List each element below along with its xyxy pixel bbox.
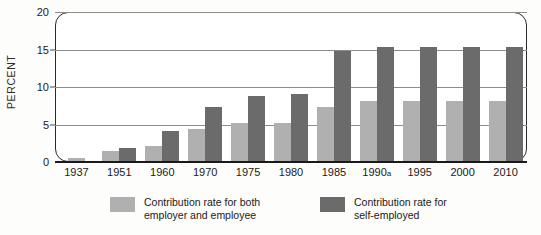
x-tick-label-2000: 2000 (450, 166, 474, 178)
chart-legend: Contribution rate for both employer and … (110, 196, 530, 230)
bar-1995-series1 (403, 101, 420, 162)
legend-item-employer-employee: Contribution rate for both employer and … (110, 196, 320, 221)
bar-1960-series1 (145, 146, 162, 163)
x-tick-label-1970: 1970 (193, 166, 217, 178)
bar-group-1970 (184, 12, 227, 162)
bar-1975-series2 (248, 96, 265, 162)
x-axis-labels: 19371951196019701975198019851990a1995200… (55, 166, 527, 182)
bar-1990a-series1 (360, 101, 377, 162)
x-tick-label-1995: 1995 (407, 166, 431, 178)
bar-group-1995 (398, 12, 441, 162)
y-tick-label-5: 5 (11, 119, 49, 131)
x-tick-label-1985: 1985 (322, 166, 346, 178)
bars-layer (55, 12, 527, 162)
bar-1951-series2 (119, 148, 136, 162)
legend-label-employer-employee: Contribution rate for both employer and … (144, 196, 260, 221)
bar-2010-series2 (506, 47, 523, 162)
bar-group-1960 (141, 12, 184, 162)
bar-1960-series2 (162, 131, 179, 163)
bar-1985-series2 (334, 51, 351, 162)
y-tick-label-0: 0 (11, 156, 49, 168)
bar-1980-series2 (291, 94, 308, 162)
bar-group-1975 (227, 12, 270, 162)
bar-group-1985 (312, 12, 355, 162)
bar-2010-series1 (489, 101, 506, 162)
bar-group-1990a (355, 12, 398, 162)
y-tick-label-10: 10 (11, 81, 49, 93)
legend-item-self-employed: Contribution rate for self-employed (320, 196, 447, 221)
bar-2000-series1 (446, 101, 463, 162)
bar-1985-series1 (317, 107, 334, 163)
bar-1975-series1 (231, 123, 248, 162)
x-tick-label-1975: 1975 (236, 166, 260, 178)
bar-1980-series1 (274, 123, 291, 162)
y-tick-label-15: 15 (11, 44, 49, 56)
footnote-marker: a (387, 169, 391, 178)
x-tick-label-1990a: 1990a (362, 166, 391, 178)
bar-group-1937 (55, 12, 98, 162)
bar-chart: PERCENT 05101520 19371951196019701975198… (0, 0, 541, 235)
x-tick-label-1951: 1951 (107, 166, 131, 178)
bar-group-1980 (270, 12, 313, 162)
bar-1970-series1 (188, 129, 205, 162)
legend-swatch-employer-employee (110, 197, 135, 212)
y-axis-ticks: 05101520 (0, 0, 49, 190)
x-tick-label-1937: 1937 (64, 166, 88, 178)
legend-swatch-self-employed (320, 197, 345, 212)
bar-group-2010 (484, 12, 527, 162)
x-tick-label-1960: 1960 (150, 166, 174, 178)
x-tick-label-2010: 2010 (493, 166, 517, 178)
legend-label-self-employed: Contribution rate for self-employed (354, 196, 447, 221)
bar-group-1951 (98, 12, 141, 162)
x-tick-label-1980: 1980 (279, 166, 303, 178)
bar-2000-series2 (463, 47, 480, 162)
bar-1995-series2 (420, 47, 437, 162)
bar-group-2000 (441, 12, 484, 162)
y-tick-label-20: 20 (11, 6, 49, 18)
axis-baseline (55, 161, 527, 163)
plot-area (55, 12, 527, 162)
bar-1970-series2 (205, 107, 222, 163)
bar-1990a-series2 (377, 47, 394, 162)
